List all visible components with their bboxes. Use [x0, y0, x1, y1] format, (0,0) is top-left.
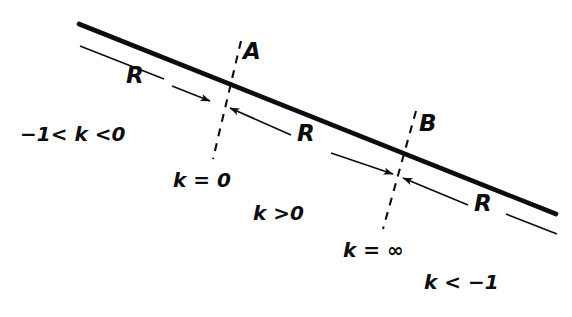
thick-diagonal-line: [79, 24, 556, 214]
segment-label-right-R: R: [474, 192, 492, 215]
arrow-right-segment-left: [403, 178, 468, 205]
arrow-middle-segment-right: [331, 153, 393, 174]
annotation-k-greater-than-0: k >0: [253, 203, 304, 223]
annotation-k-between-neg1-and-0: −1< k <0: [20, 124, 125, 144]
point-label-a: A: [243, 40, 261, 63]
annotation-k-less-than-neg1: k < −1: [424, 272, 499, 292]
dashed-line-b: [383, 111, 416, 229]
leader-line-right: [506, 214, 557, 234]
annotation-k-equals-infinity: k = ∞: [343, 240, 404, 260]
point-label-b: B: [419, 112, 437, 135]
segment-label-left-R: R: [126, 64, 144, 87]
root-locus-diagram: R R R A B −1< k <0 k = 0 k >0 k = ∞ k < …: [0, 0, 572, 317]
dashed-line-a: [213, 41, 241, 159]
annotation-k-equals-0: k = 0: [173, 170, 231, 190]
segment-label-middle-R: R: [297, 122, 315, 145]
arrow-left-segment-right: [172, 86, 210, 101]
arrow-middle-segment-left: [230, 108, 291, 135]
